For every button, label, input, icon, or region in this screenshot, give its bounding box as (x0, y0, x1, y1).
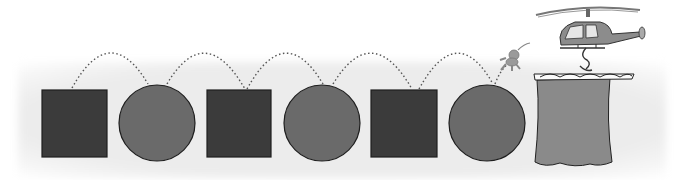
helicopter-icon (536, 7, 645, 70)
jump-arcs (72, 53, 510, 89)
square-2 (207, 90, 271, 157)
sequence-diagram (0, 0, 680, 180)
jumping-figure-icon (500, 43, 530, 71)
arc-4 (333, 53, 412, 89)
arc-1 (72, 53, 148, 88)
circle-2 (284, 85, 360, 161)
square-3 (371, 90, 437, 157)
circle-3 (449, 85, 525, 161)
square-1 (42, 90, 107, 157)
arc-6 (495, 62, 510, 84)
curtain-bucket-icon (534, 74, 634, 166)
arc-5 (419, 53, 493, 89)
arc-2 (167, 53, 245, 89)
circle-1 (119, 85, 195, 161)
arc-3 (247, 53, 323, 89)
